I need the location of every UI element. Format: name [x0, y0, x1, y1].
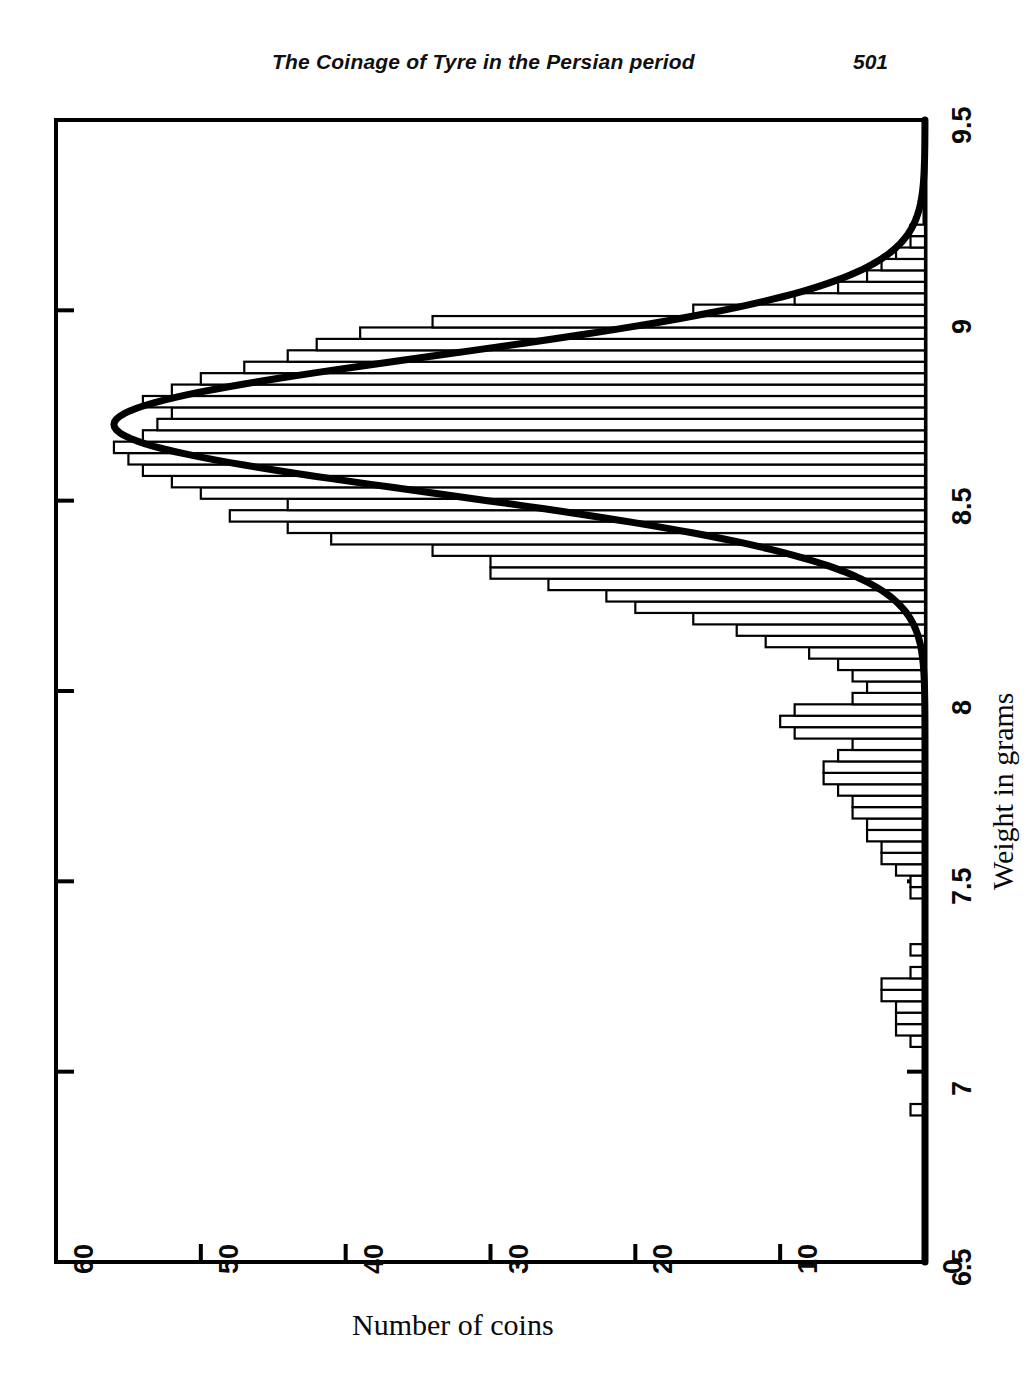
histogram-bar [143, 430, 925, 441]
category-tick-label: 9 [947, 319, 978, 334]
histogram-bar [853, 670, 925, 681]
category-axis-title: Weight in grams [986, 692, 1020, 890]
histogram-bar [491, 556, 926, 567]
histogram-bar [838, 784, 925, 795]
histogram-bar [780, 716, 925, 727]
category-tick-label: 7 [947, 1081, 978, 1096]
histogram-bar [911, 236, 925, 247]
page-header: The Coinage of Tyre in the Persian perio… [0, 0, 1032, 100]
page-number: 501 [853, 50, 888, 74]
histogram-bar [867, 819, 925, 830]
histogram-bar [737, 624, 925, 635]
histogram-bar [693, 613, 925, 624]
value-tick-label: 50 [214, 1244, 245, 1274]
running-head: The Coinage of Tyre in the Persian perio… [272, 50, 695, 74]
histogram-bar [882, 841, 925, 852]
histogram-bar [809, 647, 925, 658]
histogram-bar [331, 533, 925, 544]
category-tick-label: 7.5 [947, 868, 978, 906]
histogram-bar [882, 978, 925, 989]
histogram-bar [433, 544, 925, 555]
chart-canvas [0, 100, 1032, 1386]
value-tick-label: 10 [793, 1244, 824, 1274]
histogram-figure: 6050403020100 9.598.587.576.5 Number of … [0, 100, 1032, 1386]
value-tick-label: 40 [359, 1244, 390, 1274]
histogram-bar [838, 282, 925, 293]
histogram-bar [882, 853, 925, 864]
value-tick-label: 20 [648, 1244, 679, 1274]
histogram-bar [795, 704, 925, 715]
histogram-bar [824, 773, 925, 784]
histogram-bar [853, 693, 925, 704]
histogram-bar [172, 385, 925, 396]
histogram-bar [896, 1001, 925, 1012]
histogram-bar [143, 396, 925, 407]
histogram-bars [114, 225, 925, 1116]
value-axis-title: Number of coins [352, 1308, 554, 1342]
histogram-bar [824, 761, 925, 772]
category-tick-label: 9.5 [947, 106, 978, 144]
histogram-bar [795, 727, 925, 738]
histogram-bar [896, 1013, 925, 1024]
histogram-bar [766, 636, 925, 647]
histogram-bar [838, 659, 925, 670]
histogram-bar [896, 864, 925, 875]
histogram-bar [853, 807, 925, 818]
histogram-bar [172, 476, 925, 487]
category-tick-label: 8 [947, 700, 978, 715]
histogram-bar [606, 590, 925, 601]
histogram-bar [635, 602, 925, 613]
histogram-bar [795, 293, 925, 304]
histogram-bar [896, 1024, 925, 1035]
histogram-bar [853, 796, 925, 807]
histogram-bar [172, 407, 925, 418]
value-tick-label: 30 [504, 1244, 535, 1274]
histogram-bar [867, 270, 925, 281]
histogram-bar [867, 681, 925, 692]
histogram-bar [114, 442, 925, 453]
histogram-bar [853, 739, 925, 750]
histogram-bar [288, 522, 925, 533]
category-tick-label: 6.5 [947, 1248, 978, 1286]
histogram-bar [896, 248, 925, 259]
value-tick-label: 60 [69, 1244, 100, 1274]
histogram-bar [288, 499, 925, 510]
histogram-bar [360, 327, 925, 338]
normal-fit-curve [114, 120, 925, 1262]
category-tick-label: 8.5 [947, 487, 978, 525]
histogram-bar [867, 830, 925, 841]
histogram-bar [838, 750, 925, 761]
histogram-bar [201, 487, 925, 498]
histogram-bar [882, 259, 925, 270]
histogram-bar [882, 990, 925, 1001]
histogram-bar [317, 339, 925, 350]
histogram-bar [157, 419, 925, 430]
